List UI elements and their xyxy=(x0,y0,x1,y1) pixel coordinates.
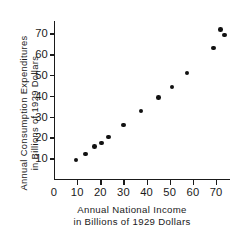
data-point xyxy=(185,71,190,76)
x-tick-label-20: 20 xyxy=(94,186,107,198)
data-point xyxy=(139,109,144,114)
x-tick-70 xyxy=(216,180,217,185)
y-tick-10 xyxy=(50,158,55,159)
x-tick-40 xyxy=(147,180,148,185)
data-point xyxy=(83,152,88,157)
x-tick-label-60: 60 xyxy=(187,186,200,198)
data-point xyxy=(106,135,111,140)
x-tick-20 xyxy=(100,180,101,185)
x-axis-title-line-2: in Billions of 1929 Dollars xyxy=(34,216,230,228)
data-point xyxy=(99,141,104,146)
y-tick-label-50: 50 xyxy=(35,69,48,81)
y-tick-label-70: 70 xyxy=(35,27,48,39)
x-axis-title-line-1: Annual National Income xyxy=(34,204,230,216)
scatter-chart-figure: Annual Consumption Expenditures in Billi… xyxy=(0,0,234,244)
y-tick-50 xyxy=(50,75,55,76)
y-axis-line xyxy=(54,21,55,179)
x-axis-line xyxy=(54,179,230,180)
y-tick-40 xyxy=(50,96,55,97)
data-point xyxy=(92,144,97,149)
x-tick-30 xyxy=(123,180,124,185)
y-tick-label-20: 20 xyxy=(35,131,48,143)
x-tick-label-30: 30 xyxy=(117,186,130,198)
data-point xyxy=(218,27,223,32)
y-tick-label-60: 60 xyxy=(35,48,48,60)
x-tick-50 xyxy=(170,180,171,185)
y-tick-label-40: 40 xyxy=(35,90,48,102)
x-tick-60 xyxy=(193,180,194,185)
data-point xyxy=(211,46,216,51)
y-tick-label-10: 10 xyxy=(35,152,48,164)
y-tick-30 xyxy=(50,117,55,118)
x-tick-label-50: 50 xyxy=(163,186,176,198)
x-tick-label-40: 40 xyxy=(140,186,153,198)
x-tick-10 xyxy=(77,180,78,185)
x-tick-label-10: 10 xyxy=(71,186,84,198)
plot-area: 10203040506070 010203040506070 xyxy=(54,21,230,179)
y-tick-label-30: 30 xyxy=(35,111,48,123)
x-axis-title: Annual National Income in Billions of 19… xyxy=(34,204,230,228)
x-tick-label-0: 0 xyxy=(51,186,57,198)
data-point xyxy=(170,85,175,90)
x-tick-label-70: 70 xyxy=(210,186,223,198)
y-tick-60 xyxy=(50,54,55,55)
y-tick-20 xyxy=(50,137,55,138)
data-point xyxy=(222,33,227,38)
data-point xyxy=(74,158,79,163)
data-point xyxy=(121,123,126,128)
data-point xyxy=(156,95,161,100)
y-tick-70 xyxy=(50,33,55,34)
